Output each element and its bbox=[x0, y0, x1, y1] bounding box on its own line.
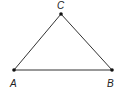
vertex-c-point bbox=[59, 12, 63, 16]
edge-ca bbox=[14, 14, 61, 70]
triangle-diagram: A B C bbox=[0, 0, 124, 96]
edge-bc bbox=[61, 14, 112, 70]
vertex-a-point bbox=[12, 68, 16, 72]
vertex-b-point bbox=[110, 68, 114, 72]
vertex-b-label: B bbox=[107, 78, 114, 89]
vertex-c-label: C bbox=[57, 0, 65, 11]
vertex-a-label: A bbox=[9, 78, 17, 89]
